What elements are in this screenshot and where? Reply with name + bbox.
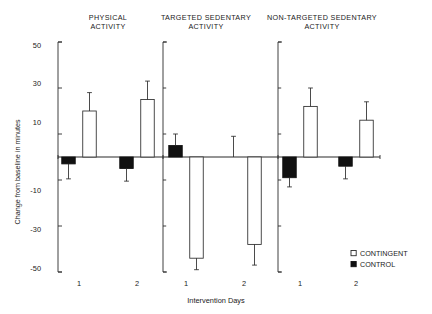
bar-non-targeted-sedentary-activity-day2-contingent[interactable] <box>360 120 374 157</box>
y-tick-label-neg50: -50 <box>30 264 41 273</box>
y-tick-label-10: 10 <box>33 118 41 127</box>
y-axis-title: Change from baseline in minutes <box>13 119 22 224</box>
legend-swatch-control <box>351 262 356 267</box>
bar-physical-activity-day1-control[interactable] <box>62 157 76 164</box>
panel-title-non-targeted-sedentary-line2: ACTIVITY <box>304 22 339 31</box>
panel-title-physical-activity-line1: PHYSICAL <box>89 13 127 22</box>
y-tick-label-neg10: -10 <box>30 186 41 195</box>
chart-legend: CONTINGENT CONTROL <box>351 249 408 269</box>
legend-label-contingent: CONTINGENT <box>360 249 408 258</box>
bar-targeted-sedentary-activity-day1-control[interactable] <box>169 146 183 158</box>
panel-title-targeted-sedentary-line2: ACTIVITY <box>188 22 223 31</box>
bar-targeted-sedentary-activity-day2-contingent[interactable] <box>248 157 262 244</box>
bar-physical-activity-day2-control[interactable] <box>120 157 134 169</box>
panel-title-targeted-sedentary-line1: TARGETED SEDENTARY <box>161 13 251 22</box>
x-tick-label-p2-day2: 2 <box>354 279 358 288</box>
bar-chart: Change from baseline in minutes 50 30 10… <box>0 0 432 314</box>
x-axis-title: Intervention Days <box>187 296 245 305</box>
legend-label-control: CONTROL <box>360 260 395 269</box>
chart-figure: Change from baseline in minutes 50 30 10… <box>0 0 432 314</box>
plot-layer <box>58 42 380 272</box>
panel-title-non-targeted-sedentary-line1: NON-TARGETED SEDENTARY <box>267 13 377 22</box>
bar-targeted-sedentary-activity-day1-contingent[interactable] <box>190 157 204 258</box>
y-tick-label-30: 30 <box>33 79 41 88</box>
y-tick-label-neg30: -30 <box>30 225 41 234</box>
legend-swatch-contingent <box>351 251 356 256</box>
x-tick-label-p1-day2: 2 <box>242 279 246 288</box>
x-tick-label-p2-day1: 1 <box>298 279 302 288</box>
x-tick-label-p0-day2: 2 <box>135 279 139 288</box>
bar-non-targeted-sedentary-activity-day2-control[interactable] <box>339 157 353 166</box>
bar-non-targeted-sedentary-activity-day1-control[interactable] <box>283 157 297 178</box>
bar-physical-activity-day2-contingent[interactable] <box>141 100 155 158</box>
y-tick-label-50: 50 <box>33 41 41 50</box>
bar-non-targeted-sedentary-activity-day1-contingent[interactable] <box>304 106 318 157</box>
panel-title-physical-activity-line2: ACTIVITY <box>90 22 125 31</box>
x-tick-label-p1-day1: 1 <box>184 279 188 288</box>
x-tick-label-p0-day1: 1 <box>77 279 81 288</box>
bar-physical-activity-day1-contingent[interactable] <box>83 111 97 157</box>
